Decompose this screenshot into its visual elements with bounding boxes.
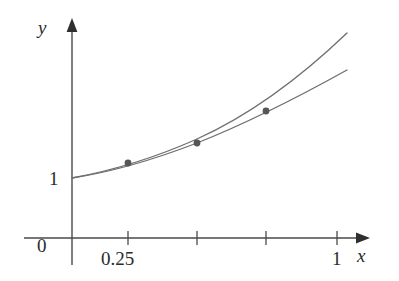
- plot-canvas: [0, 0, 399, 281]
- data-point-2: [194, 140, 201, 147]
- function-graph-figure: y x 0 1 0.25 1: [0, 0, 399, 281]
- data-point-1: [125, 160, 132, 167]
- y-axis-label: y: [38, 18, 46, 37]
- data-point-3: [263, 108, 270, 115]
- x-axis-label: x: [357, 246, 365, 265]
- upper-curve-path: [72, 33, 347, 178]
- x-axis-arrowhead: [356, 233, 370, 244]
- lower-curve-path: [72, 70, 347, 178]
- data-points: [125, 108, 270, 167]
- origin-label: 0: [37, 236, 47, 255]
- y-tick-label-1: 1: [49, 169, 59, 188]
- x-tick-label-025: 0.25: [101, 249, 134, 268]
- x-tick-label-1: 1: [332, 249, 342, 268]
- y-axis: [67, 18, 78, 265]
- y-axis-arrowhead: [67, 18, 78, 32]
